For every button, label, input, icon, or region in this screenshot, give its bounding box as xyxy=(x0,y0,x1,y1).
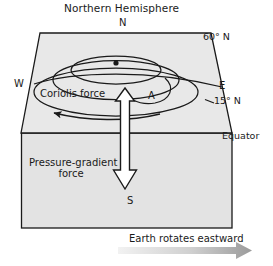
latitude-label-60n: 60° N xyxy=(203,32,230,43)
air-parcel-label: A xyxy=(148,90,155,101)
compass-label-north: N xyxy=(119,17,126,28)
latitude-label-equator: Equator xyxy=(222,131,259,142)
earth-rotation-arrow xyxy=(118,242,252,259)
compass-label-south: S xyxy=(127,195,133,206)
compass-label-east: E xyxy=(219,80,225,91)
pressure-gradient-force-line-2: force xyxy=(58,168,83,179)
latitude-label-15n: 15° N xyxy=(214,96,241,107)
figure-title: Northern Hemisphere xyxy=(64,3,179,15)
coriolis-force-label: Coriolis force xyxy=(40,88,105,99)
high-center-dot xyxy=(113,60,118,65)
compass-label-west: W xyxy=(14,78,24,89)
pressure-gradient-force-label: Pressure-gradient force xyxy=(29,157,113,179)
pressure-gradient-force-line-1: Pressure-gradient xyxy=(29,157,117,168)
earth-rotation-caption: Earth rotates eastward xyxy=(129,233,244,244)
coriolis-force-diagram: Northern Hemisphere N S W E 60° N 15° N … xyxy=(0,0,273,266)
